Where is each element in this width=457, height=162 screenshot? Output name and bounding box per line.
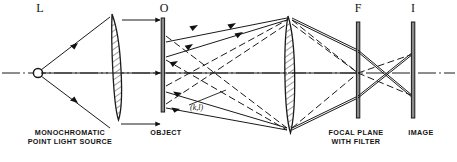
focal-plane-plate xyxy=(356,22,359,118)
caption-image: IMAGE xyxy=(392,128,450,137)
diffracted-rays-dashed xyxy=(166,20,287,130)
optical-diagram-figure: L O F I (k,l) MONOCHROMATIC POINT LIGHT … xyxy=(0,0,457,162)
label-L: L xyxy=(31,1,49,16)
image-rays-solid xyxy=(358,50,413,98)
collimating-lens xyxy=(112,14,122,120)
diffracted-rays-solid xyxy=(166,18,287,130)
diffraction-order-label: (k,l) xyxy=(190,103,203,112)
caption-object: OBJECT xyxy=(130,128,202,137)
label-I: I xyxy=(404,1,422,16)
collimated-beam xyxy=(121,20,160,124)
caption-focal-plane-with-filter: FOCAL PLANE WITH FILTER xyxy=(306,128,406,146)
image-plate xyxy=(411,22,414,118)
transform-lens xyxy=(285,16,295,133)
object-plate xyxy=(161,18,164,112)
source-rays xyxy=(41,17,110,128)
label-F: F xyxy=(349,1,367,16)
label-O: O xyxy=(155,1,173,16)
caption-monochromatic-point-light-source: MONOCHROMATIC POINT LIGHT SOURCE xyxy=(6,128,134,146)
focus-rays-solid xyxy=(292,18,358,130)
